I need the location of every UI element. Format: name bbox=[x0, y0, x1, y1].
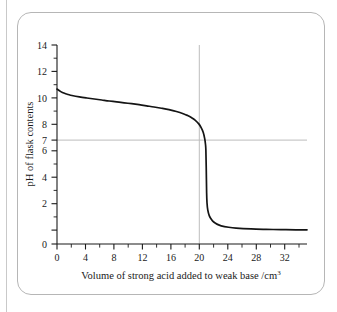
figure-root: 14 12 10 8 7 6 4 2 0 bbox=[0, 0, 337, 312]
x-tick-label: 24 bbox=[223, 252, 233, 263]
titration-curve-chart: 14 12 10 8 7 6 4 2 0 bbox=[0, 0, 337, 312]
x-axis-ticks bbox=[57, 244, 285, 250]
gridlines bbox=[57, 45, 307, 244]
y-tick-label: 6 bbox=[42, 145, 47, 156]
x-axis-title: Volume of strong acid added to weak base… bbox=[81, 269, 281, 281]
y-tick-label: 10 bbox=[37, 93, 47, 104]
x-tick-label: 8 bbox=[111, 252, 116, 263]
x-tick-label: 20 bbox=[194, 252, 204, 263]
y-tick-label: 14 bbox=[37, 40, 47, 51]
x-tick-label: 28 bbox=[251, 252, 261, 263]
y-axis-ticks bbox=[52, 45, 58, 244]
x-tick-label: 16 bbox=[166, 252, 176, 263]
titration-curve-line bbox=[57, 89, 307, 230]
y-tick-label: 4 bbox=[42, 172, 47, 183]
x-axis-tick-labels: 0 4 8 12 16 20 24 28 32 bbox=[55, 252, 290, 263]
y-tick-label-ph7: 7 bbox=[42, 135, 47, 146]
y-tick-label: 2 bbox=[42, 198, 47, 209]
x-tick-label: 0 bbox=[55, 252, 60, 263]
y-axis-title: pH of flask contents bbox=[24, 102, 35, 187]
y-tick-label: 8 bbox=[42, 119, 47, 130]
x-axis-title-text: Volume of strong acid added to weak base… bbox=[81, 270, 277, 281]
y-tick-label: 0 bbox=[42, 239, 47, 250]
x-tick-label: 32 bbox=[280, 252, 290, 263]
y-axis-tick-labels: 14 12 10 8 7 6 4 2 0 bbox=[37, 40, 47, 250]
x-tick-label: 12 bbox=[137, 252, 147, 263]
x-axis-title-superscript: 3 bbox=[277, 269, 281, 277]
y-tick-label: 12 bbox=[37, 66, 47, 77]
x-tick-label: 4 bbox=[83, 252, 88, 263]
